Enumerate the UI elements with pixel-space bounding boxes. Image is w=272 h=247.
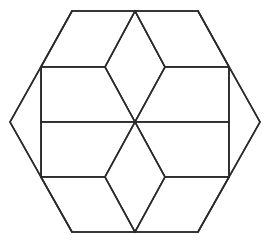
hexagon-rhombi-tiling-svg xyxy=(0,0,272,247)
figure-container xyxy=(0,0,272,247)
